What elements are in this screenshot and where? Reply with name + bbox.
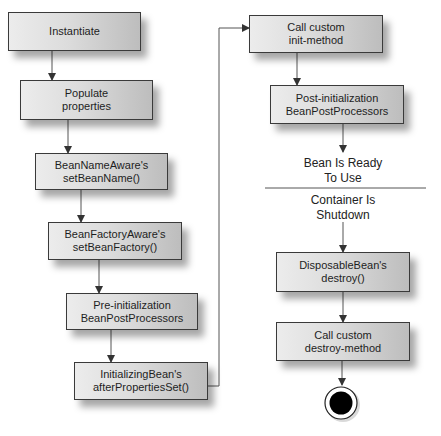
state-container-shutdown: Container Is Shutdown <box>283 193 403 223</box>
node-populate-properties: Populate properties <box>20 80 153 120</box>
node-label: Call custom destroy-method <box>305 329 381 355</box>
node-label: DisposableBean's destroy() <box>299 259 387 285</box>
node-label: Post-initialization BeanPostProcessors <box>286 92 389 118</box>
node-label: BeanFactoryAware's setBeanFactory() <box>65 228 166 254</box>
node-label: Pre-initialization BeanPostProcessors <box>81 299 184 325</box>
node-instantiate: Instantiate <box>8 12 141 51</box>
node-custom-init-method: Call custom init-method <box>249 15 383 53</box>
end-node-icon <box>325 387 360 422</box>
node-label: Populate properties <box>62 87 111 113</box>
node-bean-factory-aware: BeanFactoryAware's setBeanFactory() <box>48 222 182 260</box>
node-custom-destroy-method: Call custom destroy-method <box>276 322 410 361</box>
node-bean-name-aware: BeanNameAware's setBeanName() <box>35 153 168 190</box>
node-pre-initialization: Pre-initialization BeanPostProcessors <box>66 293 198 330</box>
state-bean-ready: Bean Is Ready To Use <box>283 156 403 186</box>
node-label: Instantiate <box>49 25 100 38</box>
lifecycle-diagram: Instantiate Populate properties BeanName… <box>0 0 441 436</box>
node-label: InitializingBean's afterPropertiesSet() <box>93 368 189 394</box>
node-disposable-bean: DisposableBean's destroy() <box>276 252 410 292</box>
node-label: Call custom init-method <box>287 21 344 47</box>
node-label: BeanNameAware's setBeanName() <box>55 159 149 185</box>
node-initializing-bean: InitializingBean's afterPropertiesSet() <box>74 362 208 400</box>
node-post-initialization: Post-initialization BeanPostProcessors <box>270 85 404 124</box>
